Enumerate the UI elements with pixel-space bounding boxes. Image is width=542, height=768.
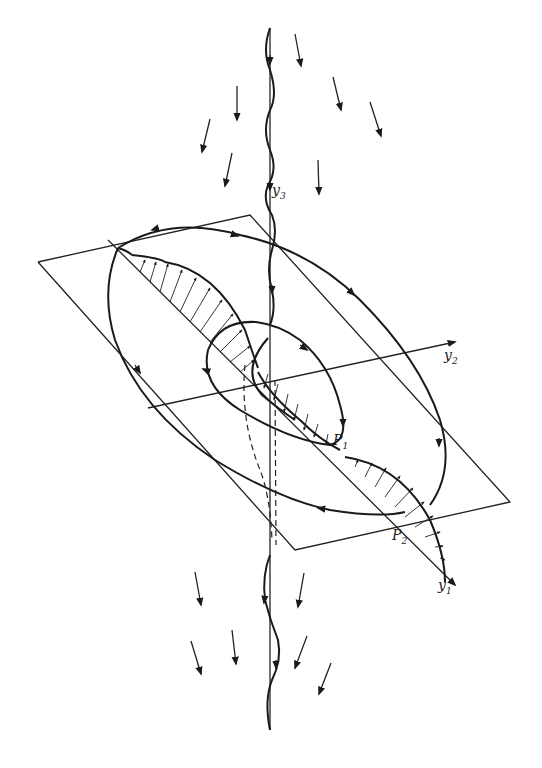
velocity-profile-upper <box>118 248 258 372</box>
velocity-profile-lower <box>345 457 445 582</box>
flow-diagram: y3 y2 y1 P1 P2 <box>0 0 542 768</box>
field-arrows-bottom <box>191 572 331 694</box>
center-swirl <box>252 338 295 420</box>
svg-text:y2: y2 <box>443 347 458 366</box>
inner-trajectory <box>203 322 343 445</box>
outer-trajectory <box>108 227 445 514</box>
y2-axis <box>148 342 455 408</box>
svg-text:y3: y3 <box>271 182 286 201</box>
field-arrows-top <box>202 34 381 194</box>
plane <box>38 215 510 550</box>
axis-label-y3: y3 <box>271 182 286 201</box>
axis-label-y2: y2 <box>443 347 458 366</box>
point-label-p2: P2 <box>391 527 407 546</box>
svg-text:P2: P2 <box>391 527 407 546</box>
